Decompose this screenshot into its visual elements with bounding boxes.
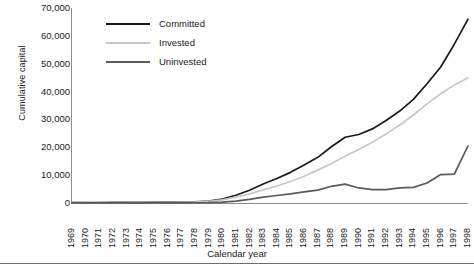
series-line-invested [72,78,468,203]
x-axis-tick-label: 1989 [340,228,349,248]
x-axis-tick-label: 1973 [122,228,131,248]
x-axis-tick-label: 1996 [436,228,445,248]
y-axis-tick-label: 40,000 [41,87,70,97]
y-axis-label: Cumulative capital [17,13,27,153]
x-axis-tick-label: 1987 [313,228,322,248]
legend-swatch-invested [106,42,150,44]
legend-item-invested: Invested [106,33,256,52]
x-axis-tick-label: 1980 [217,228,226,248]
y-axis-tick-label: 30,000 [41,114,70,124]
y-axis-tick-label: 60,000 [41,31,70,41]
y-axis-tick-labels: 70,00060,00050,00040,00030,00020,00010,0… [28,0,70,266]
x-axis-label: Calendar year [0,248,474,259]
x-axis-tick-label: 1986 [299,228,308,248]
chart-legend: CommittedInvestedUninvested [106,14,256,71]
y-axis-tick-label: 0 [65,198,70,208]
x-axis-tick-label: 1997 [449,228,458,248]
legend-swatch-uninvested [106,61,150,63]
x-axis-tick-label: 1995 [422,228,431,248]
series-line-uninvested [72,146,468,203]
x-axis-tick-label: 1977 [176,228,185,248]
footer-divider [0,263,474,264]
x-axis-tick-label: 1988 [326,228,335,248]
x-axis-tick-label: 1983 [258,228,267,248]
legend-item-uninvested: Uninvested [106,52,256,71]
y-axis-tick-label: 50,000 [41,59,70,69]
x-axis-tick-label: 1984 [272,228,281,248]
y-axis-tick-label: 10,000 [41,170,70,180]
x-axis-tick-labels: 1969197019711972197319741975197619771978… [72,206,468,248]
x-axis-tick-label: 1975 [149,228,158,248]
x-axis-tick-label: 1985 [285,228,294,248]
legend-label: Committed [159,18,205,29]
x-axis-tick-label: 1969 [67,228,76,248]
x-axis-tick-label: 1978 [190,228,199,248]
x-axis-tick-label: 1992 [381,228,390,248]
y-axis-tick-label: 20,000 [41,142,70,152]
x-axis-tick-label: 1972 [108,228,117,248]
x-axis-tick-label: 1994 [408,228,417,248]
legend-label: Uninvested [159,56,207,67]
x-axis-tick-label: 1990 [354,228,363,248]
x-axis-tick-label: 1974 [135,228,144,248]
legend-item-committed: Committed [106,14,256,33]
x-axis-tick-label: 1979 [204,228,213,248]
x-axis-tick-label: 1993 [395,228,404,248]
y-axis-tick-label: 70,000 [41,3,70,13]
legend-swatch-committed [106,23,150,25]
x-axis-tick-label: 1982 [245,228,254,248]
x-axis-tick-label: 1991 [367,228,376,248]
chart-figure: Cumulative capital 70,00060,00050,00040,… [0,0,474,266]
x-axis-tick-label: 1971 [94,228,103,248]
x-axis-tick-label: 1976 [163,228,172,248]
legend-label: Invested [159,37,195,48]
x-axis-tick-label: 1998 [463,228,472,248]
x-axis-tick-label: 1981 [231,228,240,248]
x-axis-tick-label: 1970 [81,228,90,248]
